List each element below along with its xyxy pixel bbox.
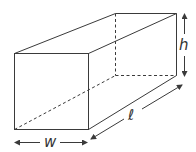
visible-edges (15, 14, 177, 130)
length-label: ℓ (127, 106, 134, 124)
box-diagram: h w ℓ (0, 0, 196, 152)
height-dimension: h (179, 14, 189, 76)
length-arrow-down-left-icon (91, 119, 124, 139)
hidden-edges (15, 14, 177, 130)
length-dimension: ℓ (91, 85, 182, 139)
width-label: w (44, 133, 57, 151)
hidden-edge-bottom-left-depth (15, 76, 116, 130)
height-label: h (179, 36, 189, 54)
edge-top-left-depth (15, 14, 116, 54)
length-arrow-up-right-icon (142, 85, 182, 109)
front-face (15, 54, 89, 130)
width-dimension: w (15, 133, 87, 151)
